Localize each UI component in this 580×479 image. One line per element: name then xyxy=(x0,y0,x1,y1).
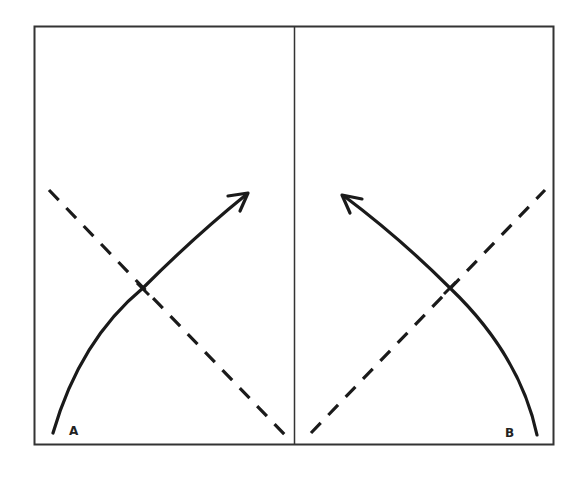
diagram-canvas: A B xyxy=(0,0,580,479)
label-b: B xyxy=(505,426,514,440)
dashed-diagonal-a xyxy=(49,190,287,437)
panel-b: B xyxy=(311,190,545,440)
curved-arrow-a xyxy=(53,194,247,433)
curved-arrow-b xyxy=(344,196,537,435)
panel-a: A xyxy=(49,190,287,438)
dashed-diagonal-b xyxy=(311,190,545,433)
label-a: A xyxy=(69,424,79,438)
